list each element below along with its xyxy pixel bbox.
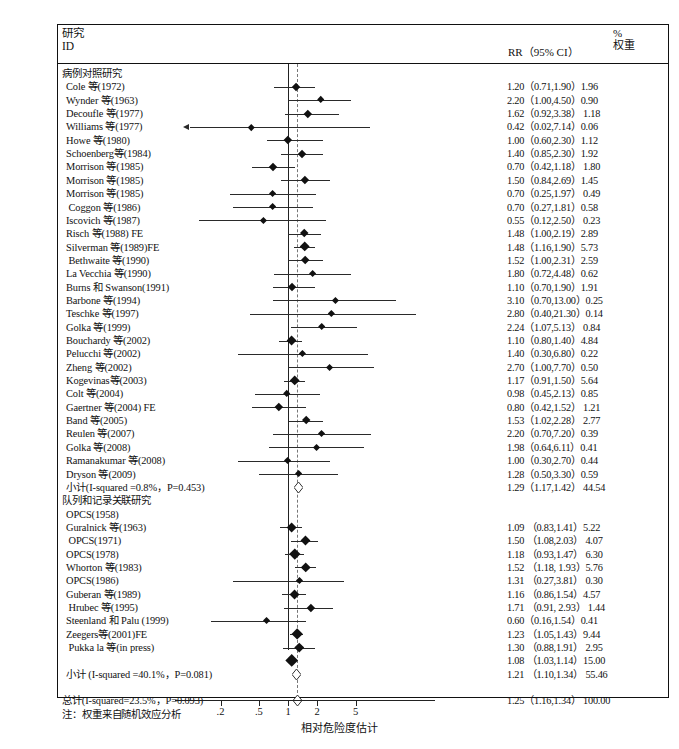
forest-row: Decoufle 等(1977)1.62（0.92,3.38） 1.18 bbox=[57, 107, 669, 120]
row-rr-ci-weight: 1.29（1.17,1.42） 44.54 bbox=[507, 481, 605, 494]
row-rr-ci-weight: 1.30 （0.88,1.91） 2.95 bbox=[507, 641, 603, 654]
row-rr-ci-weight: 1.31 （0.27,3.81） 0.30 bbox=[507, 574, 603, 587]
row-rr-ci-weight: 0.70（0.25,1.97） 0.49 bbox=[507, 187, 600, 200]
forest-row bbox=[57, 681, 669, 694]
forest-row: 队列和记录关联研究 bbox=[57, 494, 669, 507]
forest-row: 1.08 （1.03,1.14）15.00 bbox=[57, 654, 669, 667]
x-tick-label-0: .2 bbox=[217, 706, 225, 717]
row-label: Coggon 等(1986) bbox=[66, 201, 140, 214]
confidence-interval-line bbox=[190, 127, 370, 128]
confidence-interval-line bbox=[233, 581, 344, 582]
forest-row: Steenland 和 Palu (1999)0.60（0.16,1.54）0.… bbox=[57, 614, 669, 627]
row-label: 小计(I-squared =0.8%，P=0.453) bbox=[66, 481, 205, 494]
forest-row: Guralnick 等(1963)1.09 （0.83,1.41）5.22 bbox=[57, 521, 669, 534]
forest-row: Pelucchi 等(2002)1.40（0.30,6.80）0.22 bbox=[57, 347, 669, 360]
forest-row: Risch 等(1988) FE1.48（1.00,2.19）2.89 bbox=[57, 227, 669, 240]
row-label: Bethwaite 等(1990) bbox=[66, 254, 149, 267]
row-label: Burns 和 Swanson(1991) bbox=[66, 281, 169, 294]
row-label: Golka 等(1999) bbox=[66, 321, 130, 334]
forest-row: OPCS(1971)1.50 （1.08,2.03） 4.07 bbox=[57, 534, 669, 547]
forest-row: Barbone 等(1994)3.10（0.70,13.00）0.25 bbox=[57, 294, 669, 307]
forest-row: Kogevinas等(2003)1.17（0.91,1.50）5.64 bbox=[57, 374, 669, 387]
row-label: Zheng 等(2002) bbox=[66, 361, 132, 374]
row-rr-ci-weight: 1.71 （0.91, 2.93） 1.44 bbox=[507, 601, 605, 614]
row-rr-ci-weight: 1.62（0.92,3.38） 1.18 bbox=[507, 107, 600, 120]
forest-row: Wynder 等(1963)2.20（1.00,4.50）0.90 bbox=[57, 94, 669, 107]
row-label: Morrison 等(1985) bbox=[66, 187, 143, 200]
forest-row: Morrison 等(1985)0.70（0.42,1.18） 1.80 bbox=[57, 160, 669, 173]
row-label: Cole 等(1972) bbox=[66, 80, 125, 93]
forest-row: Coggon 等(1986)0.70（0.27,1.81）0.58 bbox=[57, 201, 669, 214]
column-header-weight: %权重 bbox=[613, 27, 635, 51]
row-rr-ci-weight: 1.16 （0.86,1.54）4.57 bbox=[507, 588, 600, 601]
row-label: Howe 等(1980) bbox=[66, 134, 130, 147]
row-label: Band 等(2005) bbox=[66, 414, 127, 427]
row-label: OPCS(1958) bbox=[66, 508, 119, 521]
subtotal-diamond bbox=[292, 669, 301, 680]
row-label: 病例对照研究 bbox=[62, 67, 121, 80]
row-label: Morrison 等(1985) bbox=[66, 160, 143, 173]
forest-row: Whorton 等(1983)1.52 （1.18, 1.93）5.76 bbox=[57, 561, 669, 574]
forest-row: Howe 等(1980)1.00（0.60,2.30）1.12 bbox=[57, 134, 669, 147]
row-rr-ci-weight: 2.20（1.00,4.50）0.90 bbox=[507, 94, 598, 107]
forest-row: 病例对照研究 bbox=[57, 67, 669, 80]
row-label: Silverman 等(1989)FE bbox=[66, 241, 159, 254]
row-rr-ci-weight: 1.08 （1.03,1.14）15.00 bbox=[507, 654, 605, 667]
header-weight-line2: 权重 bbox=[613, 39, 635, 51]
row-rr-ci-weight: 1.50（0.84,2.69）1.45 bbox=[507, 174, 598, 187]
forest-row: OPCS(1986)1.31 （0.27,3.81） 0.30 bbox=[57, 574, 669, 587]
row-rr-ci-weight: 1.48（1.00,2.19）2.89 bbox=[507, 227, 598, 240]
row-label: 队列和记录关联研究 bbox=[62, 494, 151, 507]
row-rr-ci-weight: 1.40（0.85,2.30）1.92 bbox=[507, 147, 598, 160]
row-label: Barbone 等(1994) bbox=[66, 294, 140, 307]
forest-plot-area: 病例对照研究Cole 等(1972)1.20（0.71,1.90）1.96Wyn… bbox=[57, 64, 669, 698]
row-rr-ci-weight: 0.98（0.45,2.13）0.85 bbox=[507, 387, 598, 400]
row-rr-ci-weight: 1.17（0.91,1.50）5.64 bbox=[507, 374, 598, 387]
row-rr-ci-weight: 1.21 （1.10,1.34） 55.46 bbox=[507, 668, 608, 681]
row-rr-ci-weight: 1.80（0.72,4.48）0.62 bbox=[507, 267, 598, 280]
x-tick-label-1: .5 bbox=[255, 706, 263, 717]
row-rr-ci-weight: 1.98（0.64,6.11）0.41 bbox=[507, 441, 597, 454]
row-rr-ci-weight: 0.60（0.16,1.54）0.41 bbox=[507, 614, 598, 627]
row-rr-ci-weight: 1.10（0.70,1.90）1.91 bbox=[507, 281, 598, 294]
row-label: Williams 等(1977) bbox=[66, 120, 142, 133]
row-rr-ci-weight: 1.52 （1.18, 1.93）5.76 bbox=[507, 561, 603, 574]
forest-row: 小计 (I-squared =40.1%，P=0.081)1.21 （1.10,… bbox=[57, 668, 669, 681]
row-rr-ci-weight: 3.10（0.70,13.00）0.25 bbox=[507, 294, 603, 307]
row-label: Dryson 等(2009) bbox=[66, 468, 136, 481]
row-rr-ci-weight: 0.42（0.02,7.14）0.06 bbox=[507, 120, 598, 133]
row-rr-ci-weight: 1.53（1.02,2.28） 2.77 bbox=[507, 414, 600, 427]
forest-row: OPCS(1978)1.18 （0.93,1.47） 6.30 bbox=[57, 548, 669, 561]
confidence-interval-line bbox=[211, 621, 306, 622]
header-study-line2: ID bbox=[62, 40, 74, 52]
x-tick-label-4: 5 bbox=[353, 706, 358, 717]
forest-row: Bethwaite 等(1990)1.52（1.00,2.31）2.59 bbox=[57, 254, 669, 267]
x-axis-label: 相对危险度估计 bbox=[0, 719, 679, 735]
header-study-line1: 研究 bbox=[62, 27, 84, 39]
column-header-study: 研究ID bbox=[62, 27, 84, 53]
row-rr-ci-weight: 2.80（0.40,21.30）0.14 bbox=[507, 307, 603, 320]
forest-plot-page: 研究ID RR（95% CI） %权重 病例对照研究Cole 等(1972)1.… bbox=[0, 0, 679, 749]
forest-row: Dryson 等(2009)1.28（0.50,3.30）0.59 bbox=[57, 468, 669, 481]
row-rr-ci-weight: 1.48（1.16,1.90）5.73 bbox=[507, 241, 598, 254]
forest-row: La Vecchia 等(1990)1.80（0.72,4.48）0.62 bbox=[57, 267, 669, 280]
forest-row: Zeegers等(2001)FE1.23 （1.05,1.43）9.44 bbox=[57, 628, 669, 641]
row-rr-ci-weight: 0.55（0.12,2.50） 0.23 bbox=[507, 214, 600, 227]
row-label: Teschke 等(1997) bbox=[66, 307, 139, 320]
row-label: Zeegers等(2001)FE bbox=[66, 628, 147, 641]
row-label: Decoufle 等(1977) bbox=[66, 107, 143, 120]
row-rr-ci-weight: 0.70（0.42,1.18） 1.80 bbox=[507, 160, 600, 173]
row-rr-ci-weight: 1.52（1.00,2.31）2.59 bbox=[507, 254, 598, 267]
forest-row: Gaertner 等(2004) FE0.80（0.42,1.52） 1.21 bbox=[57, 401, 669, 414]
forest-row: Teschke 等(1997)2.80（0.40,21.30）0.14 bbox=[57, 307, 669, 320]
forest-row: Ramanakumar 等(2008)1.00（0.30,2.70）0.44 bbox=[57, 454, 669, 467]
row-rr-ci-weight: 1.10（0.80,1.40）4.84 bbox=[507, 334, 598, 347]
forest-row: Bouchardy 等(2002)1.10（0.80,1.40）4.84 bbox=[57, 334, 669, 347]
forest-row: Pukka la 等(in press)1.30 （0.88,1.91） 2.9… bbox=[57, 641, 669, 654]
forest-row: Golka 等(1999)2.24（1.07,5.13） 0.84 bbox=[57, 321, 669, 334]
row-label: Schoenberg等(1984) bbox=[66, 147, 151, 160]
row-rr-ci-weight: 1.00（0.30,2.70）0.44 bbox=[507, 454, 598, 467]
x-tick-label-2: 1 bbox=[285, 706, 290, 717]
row-rr-ci-weight: 1.40（0.30,6.80）0.22 bbox=[507, 347, 598, 360]
forest-row: Hrubec 等(1995)1.71 （0.91, 2.93） 1.44 bbox=[57, 601, 669, 614]
